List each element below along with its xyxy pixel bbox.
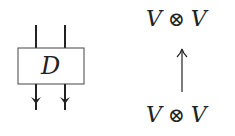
top-expression: V⊗V (146, 6, 207, 31)
tensor-icon: ⊗ (168, 103, 185, 127)
top-right-space: V (191, 6, 207, 31)
bottom-right-space: V (191, 102, 207, 127)
bottom-left-space: V (146, 102, 162, 127)
box-label: D (41, 52, 60, 80)
top-left-space: V (146, 6, 162, 31)
bottom-expression: V⊗V (146, 102, 207, 127)
tensor-icon: ⊗ (168, 7, 185, 31)
